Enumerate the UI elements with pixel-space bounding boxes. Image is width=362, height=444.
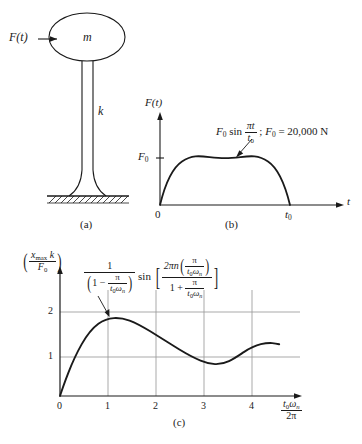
panel-c-xtick-1: 1 [105, 401, 110, 411]
panel-c-xtick-4: 4 [249, 401, 254, 411]
panel-c-y-axis-label: (xmax kF0) [22, 250, 63, 273]
panel-caption-c: (c) [173, 417, 185, 428]
panel-c-xtick-2: 2 [153, 401, 158, 411]
panel-c-xtick-0: 0 [57, 401, 62, 411]
figure-canvas [0, 0, 362, 444]
column-left-edge [69, 61, 82, 196]
column-right-edge [93, 61, 106, 196]
panel-c-formula: 1 (1 − πt0ωn) sin [2πn(πt0ωn)1 + πt0ωn] [84, 256, 220, 299]
panel-b-origin-label: 0 [155, 209, 161, 220]
panel-c-ytick-1: 1 [48, 351, 53, 361]
panel-b-t0-label: t0 [285, 209, 292, 222]
panel-c-ytick-2: 2 [48, 306, 53, 316]
panel-c-xtick-3: 3 [201, 401, 206, 411]
panel-b-x-axis-arrow [336, 202, 344, 208]
panel-c-x-axis-label: t0ωn2π [281, 399, 302, 422]
force-label-a: F(t) [9, 31, 28, 43]
mass-label: m [83, 31, 92, 43]
stiffness-label: k [98, 105, 103, 117]
force-pulse-curve [160, 156, 290, 205]
panel-b-y-axis-arrow [157, 112, 163, 120]
panel-b-y-axis-label: F(t) [145, 97, 162, 108]
ground-hatching [47, 196, 129, 203]
panel-b-annotation: F0 sin πtt0 ; F0 = 20,000 N [216, 121, 328, 144]
figure-root: F(t) m k (a) F(t) F0 0 t0 t F0 sin πtt0 … [0, 0, 362, 444]
panel-caption-a: (a) [80, 219, 92, 230]
panel-b-f0-label: F0 [138, 151, 148, 164]
panel-b-x-axis-label: t [347, 196, 350, 207]
panel-caption-b: (b) [225, 219, 238, 230]
